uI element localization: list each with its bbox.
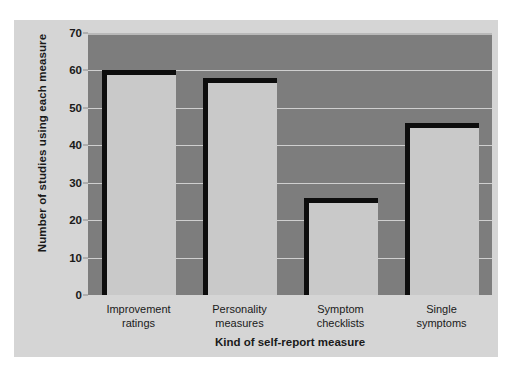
- plot-area: 010203040506070Improvement ratingsPerson…: [88, 33, 492, 295]
- gridline: [88, 33, 492, 35]
- chart-panel: Number of studies using each measure 010…: [14, 20, 498, 357]
- x-axis-tick-label: Personality measures: [189, 302, 290, 330]
- y-axis-tick-mark: [83, 33, 88, 34]
- x-axis-title: Kind of self-report measure: [88, 336, 492, 348]
- y-axis-tick-label: 0: [76, 289, 82, 301]
- y-axis-tick-mark: [83, 257, 88, 258]
- y-axis-tick-label: 70: [69, 27, 82, 39]
- bar: [405, 123, 479, 295]
- bar: [304, 198, 378, 295]
- bar: [102, 70, 176, 295]
- y-axis-tick-mark: [83, 70, 88, 71]
- y-axis-tick-label: 40: [69, 139, 82, 151]
- y-axis-tick-label: 60: [69, 64, 82, 76]
- bar-chart-figure: Number of studies using each measure 010…: [0, 0, 523, 372]
- y-axis-tick-mark: [83, 107, 88, 108]
- bar: [203, 78, 277, 295]
- y-axis-tick-label: 10: [69, 252, 82, 264]
- y-axis-tick-label: 20: [69, 214, 82, 226]
- x-axis-tick-label: Symptom checklists: [290, 302, 391, 330]
- y-axis-tick-mark: [83, 220, 88, 221]
- y-axis-tick-mark: [83, 145, 88, 146]
- y-axis-tick-label: 30: [69, 177, 82, 189]
- y-axis-tick-mark: [83, 182, 88, 183]
- y-axis-title: Number of studies using each measure: [36, 3, 48, 283]
- y-axis-tick-mark: [83, 295, 88, 296]
- x-axis-tick-label: Single symptoms: [391, 302, 492, 330]
- y-axis-tick-label: 50: [69, 102, 82, 114]
- x-axis-tick-label: Improvement ratings: [88, 302, 189, 330]
